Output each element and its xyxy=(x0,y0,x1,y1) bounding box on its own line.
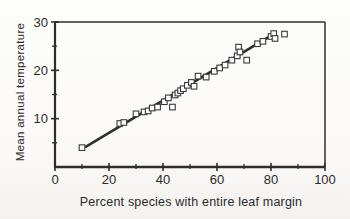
data-point-marker xyxy=(244,57,250,63)
x-tick-label: 20 xyxy=(102,172,116,187)
data-point-marker xyxy=(79,145,85,151)
data-point-marker xyxy=(212,69,218,75)
data-point-marker xyxy=(121,120,127,126)
data-point-marker xyxy=(166,95,172,101)
data-point-marker xyxy=(170,104,176,110)
data-point-marker xyxy=(237,49,243,55)
x-tick-label: 60 xyxy=(210,172,224,187)
y-tick-label: 30 xyxy=(34,15,48,30)
y-axis-label: Mean annual temperature xyxy=(14,23,26,162)
plot-area: 020406080100102030 xyxy=(34,15,336,188)
data-point-marker xyxy=(155,104,161,110)
data-point-marker xyxy=(217,65,223,71)
x-tick-label: 80 xyxy=(264,172,278,187)
data-point-marker xyxy=(203,74,209,80)
data-point-marker xyxy=(149,105,155,111)
data-point-marker xyxy=(260,39,266,45)
data-point-marker xyxy=(272,36,278,42)
data-point-marker xyxy=(222,62,228,68)
x-tick-label: 40 xyxy=(156,172,170,187)
data-point-marker xyxy=(191,83,197,89)
data-point-marker xyxy=(195,73,201,79)
data-point-marker xyxy=(229,57,235,63)
y-tick-label: 20 xyxy=(34,63,48,78)
x-tick-label: 100 xyxy=(314,172,336,187)
data-point-marker xyxy=(255,41,261,47)
data-point-marker xyxy=(282,31,288,37)
y-tick-label: 10 xyxy=(34,111,48,126)
scatter-chart: 020406080100102030 Percent species with … xyxy=(0,0,350,219)
x-tick-label: 0 xyxy=(51,172,58,187)
data-point-marker xyxy=(133,111,139,117)
x-axis-label: Percent species with entire leaf margin xyxy=(80,195,303,209)
leaf-margin-temperature-figure: 020406080100102030 Percent species with … xyxy=(0,0,350,219)
